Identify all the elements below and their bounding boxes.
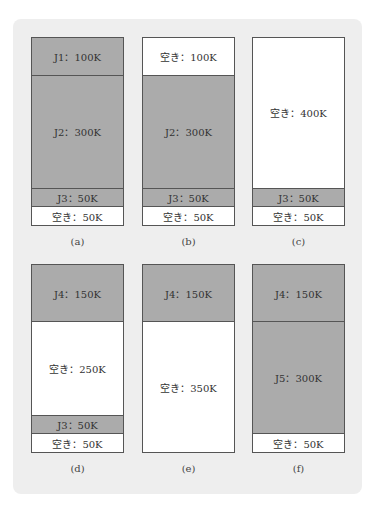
memory-panel-c: 空き：400KJ3：50K空き：50K xyxy=(252,37,345,226)
job-block: J4：150K xyxy=(143,265,234,321)
free-block: 空き：100K xyxy=(143,38,234,75)
free-block: 空き：250K xyxy=(32,321,123,415)
job-block: J3：50K xyxy=(32,188,123,207)
free-block: 空き：50K xyxy=(143,206,234,225)
job-block: J2：300K xyxy=(143,75,234,187)
memory-panel-e: J4：150K空き：350K xyxy=(142,264,235,453)
panel-caption: (c) xyxy=(252,236,345,247)
job-block: J3：50K xyxy=(253,188,344,207)
panel-caption: (b) xyxy=(142,236,235,247)
free-block: 空き：50K xyxy=(32,206,123,225)
memory-panel-d: J4：150K空き：250KJ3：50K空き：50K xyxy=(31,264,124,453)
memory-panel-a: J1：100KJ2：300KJ3：50K空き：50K xyxy=(31,37,124,226)
free-block: 空き：350K xyxy=(143,321,234,452)
free-block: 空き：50K xyxy=(253,433,344,452)
free-block: 空き：400K xyxy=(253,38,344,188)
memory-panel-b: 空き：100KJ2：300KJ3：50K空き：50K xyxy=(142,37,235,226)
job-block: J1：100K xyxy=(32,38,123,75)
panel-caption: (f) xyxy=(252,463,345,474)
memory-panel-f: J4：150KJ5：300K空き：50K xyxy=(252,264,345,453)
free-block: 空き：50K xyxy=(253,206,344,225)
job-block: J4：150K xyxy=(32,265,123,321)
panel-caption: (d) xyxy=(31,463,124,474)
job-block: J3：50K xyxy=(143,188,234,207)
free-block: 空き：50K xyxy=(32,433,123,452)
job-block: J5：300K xyxy=(253,321,344,433)
job-block: J3：50K xyxy=(32,415,123,434)
job-block: J2：300K xyxy=(32,75,123,187)
job-block: J4：150K xyxy=(253,265,344,321)
panel-caption: (e) xyxy=(142,463,235,474)
panel-caption: (a) xyxy=(31,236,124,247)
